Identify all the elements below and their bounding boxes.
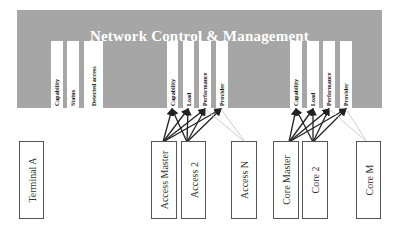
node-label: Terminal A [26,157,37,202]
core-master-node: Core Master [273,141,299,219]
node-label: Access N [239,161,250,199]
node-label: Core 2 [310,167,321,194]
node-label: Access 2 [188,162,199,198]
node-label: Core Master [281,155,292,205]
node-label: Access Master [159,151,170,210]
terminal-a-node: Terminal A [19,141,44,219]
node-label: Core M [363,165,374,196]
access-master-node: Access Master [151,141,177,219]
core-2-node: Core 2 [302,141,328,219]
access-2-node: Access 2 [181,141,206,219]
access-n-node: Access N [231,141,257,219]
core-m-node: Core M [356,141,381,219]
